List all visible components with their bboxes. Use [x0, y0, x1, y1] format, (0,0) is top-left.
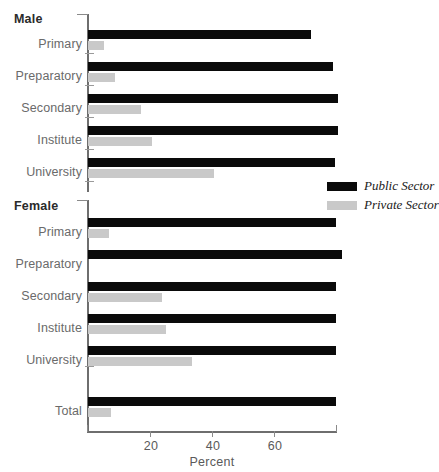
category-label-female-primary: Primary [6, 225, 82, 239]
bar-public-female-secondary [88, 282, 336, 291]
bar-public-male-secondary [88, 94, 338, 103]
category-label-total: Total [6, 404, 82, 418]
group-label-male: Male [14, 12, 43, 26]
bar-private-male-preparatory [88, 73, 115, 82]
group-label-female: Female [14, 199, 58, 213]
bar-private-female-secondary [88, 293, 162, 302]
bar-private-female-primary [88, 229, 109, 238]
category-separator-tick [85, 117, 94, 118]
bar-public-female-primary [88, 218, 336, 227]
bar-private-female-institute [88, 325, 166, 334]
category-separator-tick [85, 366, 94, 367]
x-tick-label-20: 20 [131, 439, 171, 453]
group-tick-female [77, 200, 88, 201]
bar-public-male-university [88, 158, 335, 167]
x-tick-40 [212, 431, 213, 437]
category-label-male-preparatory: Preparatory [6, 69, 82, 83]
bar-public-female-preparatory [88, 250, 342, 259]
category-separator-tick [85, 85, 94, 86]
legend-label-private-sector: Private Sector [364, 197, 439, 213]
x-tick-label-60: 60 [255, 439, 295, 453]
category-label-female-preparatory: Preparatory [6, 257, 82, 271]
legend-swatch-private-sector [327, 201, 357, 210]
legend-label-public-sector: Public Sector [364, 178, 434, 194]
bar-public-male-preparatory [88, 62, 333, 71]
x-tick-20 [150, 431, 151, 437]
bar-private-total [88, 408, 111, 417]
bar-public-female-institute [88, 314, 336, 323]
category-label-male-institute: Institute [6, 133, 82, 147]
x-tick-end [336, 425, 337, 432]
x-tick-60 [274, 431, 275, 437]
x-tick-label-40: 40 [193, 439, 233, 453]
bar-private-female-university [88, 357, 192, 366]
category-label-male-university: University [6, 165, 82, 179]
bar-public-female-university [88, 346, 336, 355]
x-tick-0 [87, 425, 88, 432]
bar-public-male-primary [88, 30, 311, 39]
category-separator-tick [85, 149, 94, 150]
bar-private-male-university [88, 169, 214, 178]
bar-private-male-institute [88, 137, 152, 146]
bar-private-male-primary [88, 41, 104, 50]
category-label-male-primary: Primary [6, 37, 82, 51]
category-label-male-secondary: Secondary [6, 101, 82, 115]
category-separator-tick [85, 181, 94, 182]
bar-public-male-institute [88, 126, 338, 135]
x-axis-title: Percent [152, 455, 272, 469]
group-tick-male [77, 14, 88, 15]
category-label-female-secondary: Secondary [6, 289, 82, 303]
bar-private-male-secondary [88, 105, 141, 114]
category-separator-tick [85, 53, 94, 54]
legend-swatch-public-sector [327, 182, 357, 191]
category-label-female-institute: Institute [6, 321, 82, 335]
category-label-female-university: University [6, 353, 82, 367]
bar-public-total [88, 397, 336, 406]
